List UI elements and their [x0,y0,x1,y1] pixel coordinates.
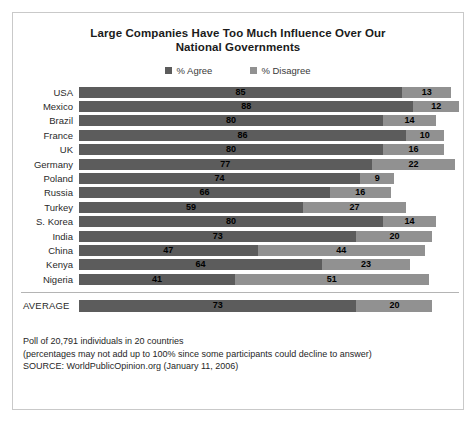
bar-segment-disagree: 13 [402,87,451,98]
chart-plot-area: USA8513Mexico8812Brazil8014France8610UK8… [13,85,463,286]
legend-label: % Agree [176,65,212,76]
bar-track: 5927 [79,202,459,213]
bar-segment-agree: 41 [79,274,235,285]
bar-row: Turkey5927 [21,200,459,214]
bar-value-agree: 59 [186,203,196,212]
bar-track: 6616 [79,187,459,198]
bar-track: 7722 [79,159,459,170]
bar-value-disagree: 10 [420,131,430,140]
bar-track: 8610 [79,130,459,141]
bar-segment-agree: 74 [79,173,360,184]
bar-value-agree: 47 [163,246,173,255]
bar-value-disagree: 14 [405,116,415,125]
bar-value-agree: 73 [213,301,223,310]
bar-row: Brazil8014 [21,114,459,128]
average-bar-row: AVERAGE7320 [21,298,459,313]
bar-row-label: Germany [21,159,79,170]
bar-segment-disagree: 44 [258,245,425,256]
bar-value-disagree: 20 [389,301,399,310]
legend-swatch-icon [165,67,172,74]
bar-value-agree: 64 [196,260,206,269]
bar-track: 6423 [79,259,459,270]
legend-swatch-icon [250,67,257,74]
bar-value-disagree: 9 [375,174,380,183]
bar-row-label: India [21,231,79,242]
bar-row: Russia6616 [21,186,459,200]
bar-value-disagree: 12 [431,102,441,111]
legend-label: % Disagree [261,65,310,76]
bar-track: 8016 [79,144,459,155]
bar-value-disagree: 20 [389,232,399,241]
bar-row-label: Brazil [21,115,79,126]
bar-value-agree: 80 [226,145,236,154]
bar-track: 7320 [79,231,459,242]
bar-segment-disagree: 14 [383,115,436,126]
bar-row-label: Turkey [21,202,79,213]
bar-segment-agree: 73 [79,231,356,242]
bar-segment-disagree: 14 [383,216,436,227]
bar-segment-disagree: 10 [406,130,444,141]
bar-row: France8610 [21,128,459,142]
bar-track: 8513 [79,87,459,98]
bar-segment-agree: 64 [79,259,322,270]
bar-segment-disagree: 9 [360,173,394,184]
average-row-group: AVERAGE7320 [13,298,463,313]
bar-value-disagree: 44 [336,246,346,255]
bar-row: Poland749 [21,171,459,185]
bar-segment-agree: 73 [79,300,356,312]
bar-segment-disagree: 12 [413,101,459,112]
bar-segment-agree: 59 [79,202,303,213]
bar-segment-disagree: 20 [356,231,432,242]
bar-row-label: China [21,245,79,256]
chart-title: Large Companies Have Too Much Influence … [43,26,433,54]
bar-segment-agree: 47 [79,245,258,256]
bar-row-label: Kenya [21,259,79,270]
bar-value-agree: 86 [237,131,247,140]
bar-segment-disagree: 16 [330,187,391,198]
footnote-line: Poll of 20,791 individuals in 20 countri… [23,335,463,348]
footnote-line: (percentages may not add up to 100% sinc… [23,348,463,361]
bar-track: 8812 [79,101,459,112]
bar-row-label: Mexico [21,101,79,112]
average-row-label: AVERAGE [21,300,79,311]
bar-row: Germany7722 [21,157,459,171]
bar-row: UK8016 [21,143,459,157]
bar-segment-disagree: 20 [356,300,432,312]
bar-segment-agree: 80 [79,115,383,126]
bar-segment-disagree: 27 [303,202,406,213]
bar-row: S. Korea8014 [21,215,459,229]
bar-segment-agree: 88 [79,101,413,112]
bar-row: China4744 [21,243,459,257]
chart-title-line-2: National Governments [43,40,433,54]
bar-value-disagree: 13 [422,88,432,97]
chart-legend: % Agree% Disagree [13,65,463,76]
chart-title-line-1: Large Companies Have Too Much Influence … [43,26,433,40]
bar-track: 749 [79,173,459,184]
bar-row: Mexico8812 [21,99,459,113]
bar-row-label: France [21,130,79,141]
chart-frame: Large Companies Have Too Much Influence … [12,12,464,410]
chart-footnotes: Poll of 20,791 individuals in 20 countri… [23,335,463,373]
bar-segment-agree: 80 [79,144,383,155]
bar-value-agree: 73 [213,232,223,241]
legend-entry: % Disagree [250,65,310,76]
legend-entry: % Agree [165,65,212,76]
bar-segment-agree: 86 [79,130,406,141]
bar-value-agree: 88 [241,102,251,111]
bar-row: India7320 [21,229,459,243]
bar-segment-disagree: 22 [372,159,456,170]
bar-value-agree: 80 [226,116,236,125]
bar-row: Nigeria4151 [21,272,459,286]
bar-value-agree: 66 [199,188,209,197]
average-separator [21,292,459,293]
footnote-line: SOURCE: WorldPublicOpinion.org (January … [23,360,463,373]
bar-value-disagree: 16 [408,145,418,154]
bar-segment-disagree: 23 [322,259,409,270]
bar-row-label: S. Korea [21,216,79,227]
bar-track: 4744 [79,245,459,256]
bar-value-disagree: 16 [355,188,365,197]
bar-segment-agree: 77 [79,159,372,170]
bar-value-agree: 41 [152,275,162,284]
bar-value-disagree: 27 [349,203,359,212]
bar-value-disagree: 14 [405,217,415,226]
